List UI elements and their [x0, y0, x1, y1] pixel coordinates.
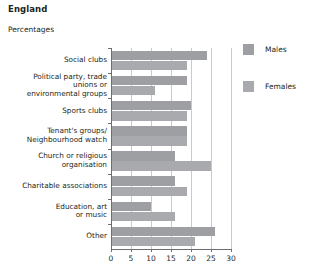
bar-males-5: [112, 176, 175, 185]
page-title: England: [8, 4, 47, 14]
legend-label: Females: [265, 82, 296, 91]
x-tick-25: [211, 249, 212, 252]
plot-area: 051015202530: [111, 48, 231, 249]
category-label-line: Social clubs: [3, 56, 107, 65]
category-label-3: Tenant's groups/Neighbourhood watch: [3, 127, 107, 144]
gridline-30: [231, 48, 232, 249]
y-tick-4: [108, 149, 111, 150]
x-tick-label-30: 30: [220, 254, 242, 263]
category-label-0: Social clubs: [3, 56, 107, 65]
x-tick-label-0: 0: [100, 254, 122, 263]
category-label-line: Charitable associations: [3, 182, 107, 191]
x-tick-15: [171, 249, 172, 252]
category-label-6: Education, artor music: [3, 203, 107, 220]
x-tick-20: [191, 249, 192, 252]
x-tick-30: [231, 249, 232, 252]
legend-swatch-icon: [243, 81, 254, 92]
bar-females-6: [112, 212, 175, 221]
y-tick-7: [108, 224, 111, 225]
x-tick-label-25: 25: [200, 254, 222, 263]
x-tick-5: [131, 249, 132, 252]
x-tick-label-15: 15: [160, 254, 182, 263]
x-tick-label-5: 5: [120, 254, 142, 263]
x-tick-10: [151, 249, 152, 252]
y-tick-5: [108, 174, 111, 175]
bar-males-7: [112, 227, 215, 236]
bar-males-4: [112, 151, 175, 160]
bar-females-7: [112, 237, 195, 246]
bar-males-2: [112, 101, 191, 110]
bar-females-3: [112, 136, 187, 145]
x-tick-label-10: 10: [140, 254, 162, 263]
y-tick-6: [108, 199, 111, 200]
bar-males-0: [112, 51, 207, 60]
bar-males-3: [112, 126, 187, 135]
y-tick-3: [108, 123, 111, 124]
legend-label: Males: [265, 45, 287, 54]
bar-females-4: [112, 161, 211, 170]
category-label-line: Other: [3, 232, 107, 241]
y-tick-2: [108, 98, 111, 99]
x-tick-label-20: 20: [180, 254, 202, 263]
bar-males-6: [112, 202, 151, 211]
category-label-line: or music: [3, 211, 107, 220]
x-tick-0: [111, 249, 112, 252]
bar-males-1: [112, 76, 187, 85]
category-label-line: organisation: [3, 161, 107, 170]
category-label-line: Neighbourhood watch: [3, 136, 107, 145]
y-tick-0: [108, 48, 111, 49]
category-label-7: Other: [3, 232, 107, 241]
bar-females-2: [112, 111, 187, 120]
category-label-line: environmental groups: [3, 90, 107, 99]
gridline-25: [211, 48, 212, 249]
gridline-20: [191, 48, 192, 249]
chart-subtitle: Percentages: [8, 25, 54, 34]
category-label-2: Sports clubs: [3, 107, 107, 116]
bar-females-1: [112, 86, 155, 95]
category-label-5: Charitable associations: [3, 182, 107, 191]
y-tick-1: [108, 73, 111, 74]
legend-swatch-icon: [243, 44, 254, 55]
chart-container: England Percentages Social clubsPolitica…: [0, 0, 311, 276]
bar-females-0: [112, 61, 187, 70]
category-label-1: Political party, tradeunions orenvironme…: [3, 73, 107, 99]
category-label-4: Church or religiousorganisation: [3, 152, 107, 169]
bar-females-5: [112, 187, 187, 196]
category-label-line: Sports clubs: [3, 107, 107, 116]
category-axis-labels: Social clubsPolitical party, tradeunions…: [0, 48, 107, 249]
